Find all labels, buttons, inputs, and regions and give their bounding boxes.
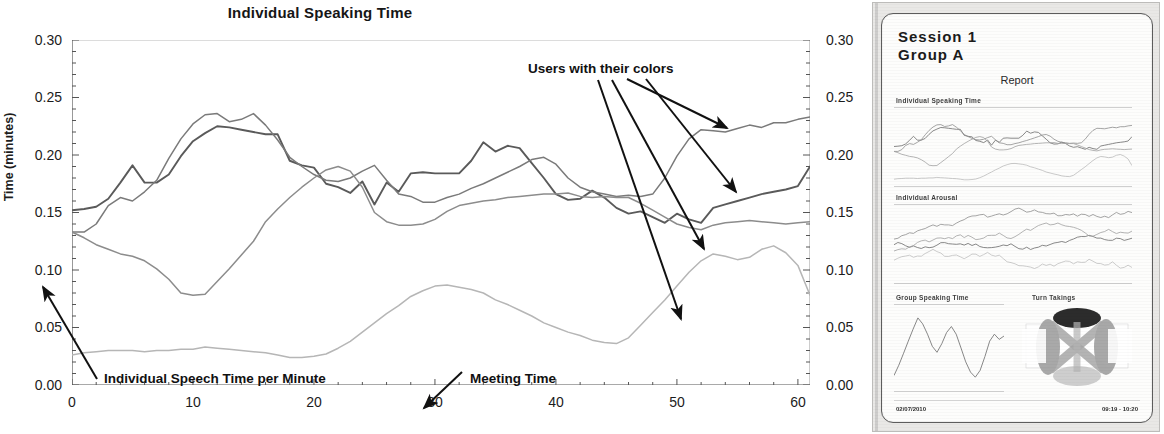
x-tick-50: 50: [657, 394, 697, 410]
report-mini-chart-arousal: [894, 204, 1132, 284]
y-tick-right-6: 0.00: [826, 377, 872, 393]
annotation-meeting-time: Meeting Time: [470, 371, 556, 386]
report-session-title: Session 1: [898, 28, 977, 45]
series-line-3: [72, 167, 810, 296]
report-group-title: Group A: [898, 46, 964, 63]
axis-ticks: [72, 40, 810, 385]
y-tick-left-1: 0.25: [16, 89, 62, 105]
y-tick-right-4: 0.10: [826, 262, 872, 278]
mini-chart-2-series: [894, 208, 1132, 268]
mini-series-4: [894, 249, 1132, 268]
y-tick-right-3: 0.15: [826, 204, 872, 220]
mini-chart-3-svg: [894, 305, 1004, 391]
photo-edge-streak: [875, 3, 878, 431]
annotation-individual-speech-time: Individual Speech Time per Minute: [104, 371, 326, 386]
report-heading: Report: [882, 74, 1152, 86]
report-mini-chart-group-speaking: [894, 304, 1004, 392]
x-tick-20: 20: [294, 394, 334, 410]
x-tick-40: 40: [536, 394, 576, 410]
report-photo-panel: Session 1 Group A Report Individual Spea…: [872, 2, 1160, 432]
report-footer-date: 02/07/2010: [896, 406, 926, 412]
mini-series-1: [894, 318, 1004, 377]
individual-speaking-time-chart: Individual Speaking Time Time (minutes) …: [0, 0, 866, 434]
y-tick-left-4: 0.10: [16, 262, 62, 278]
report-section-individual-arousal-label: Individual Arousal: [896, 194, 958, 201]
series-line-4: [72, 246, 810, 358]
x-tick-0: 0: [52, 394, 92, 410]
data-series-group: [72, 114, 810, 358]
y-tick-left-6: 0.00: [16, 377, 62, 393]
mini-series-3: [894, 137, 1132, 166]
report-mini-chart-speaking-time: [894, 107, 1132, 187]
screenshot-root: Individual Speaking Time Time (minutes) …: [0, 0, 1164, 434]
y-tick-right-0: 0.30: [826, 32, 872, 48]
report-section-individual-speaking-time-label: Individual Speaking Time: [896, 97, 981, 104]
plot-svg: [72, 40, 810, 385]
plot-area: [72, 40, 810, 385]
mini-series-3: [894, 223, 1132, 251]
axes: [72, 40, 810, 385]
x-tick-30: 30: [415, 394, 455, 410]
y-tick-right-1: 0.25: [826, 89, 872, 105]
x-tick-10: 10: [173, 394, 213, 410]
y-tick-left-3: 0.15: [16, 204, 62, 220]
series-line-1: [72, 126, 810, 223]
y-axis-label: Time (minutes): [2, 92, 16, 222]
report-section-group-speaking-time-label: Group Speaking Time: [896, 294, 969, 301]
report-section-turn-takings-label: Turn Takings: [1032, 294, 1075, 301]
annotation-users-colors: Users with their colors: [528, 61, 674, 76]
chart-title: Individual Speaking Time: [0, 4, 640, 21]
mini-chart-1-svg: [894, 108, 1132, 186]
mini-chart-1-series: [894, 125, 1132, 180]
report-footer-divider: [894, 400, 1140, 401]
mini-chart-2-svg: [894, 205, 1132, 283]
x-tick-60: 60: [778, 394, 818, 410]
mini-chart-3-series: [894, 318, 1004, 377]
turn-takings-svg: [1022, 302, 1132, 392]
y-tick-right-2: 0.20: [826, 147, 872, 163]
y-tick-left-5: 0.05: [16, 319, 62, 335]
report-turn-takings-diagram: [1022, 302, 1132, 392]
y-tick-right-5: 0.05: [826, 319, 872, 335]
mini-series-4: [894, 155, 1132, 180]
y-tick-left-2: 0.20: [16, 147, 62, 163]
report-footer-time-range: 09:19 - 10:20: [1102, 406, 1138, 412]
report-card: Session 1 Group A Report Individual Spea…: [881, 13, 1153, 423]
mini-series-1: [894, 128, 1132, 150]
y-tick-left-0: 0.30: [16, 32, 62, 48]
